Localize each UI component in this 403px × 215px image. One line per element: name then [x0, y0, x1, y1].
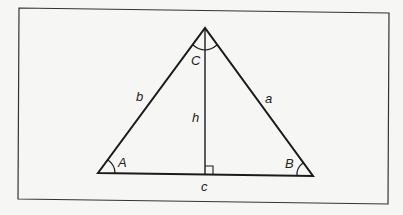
right-angle-marker [205, 166, 213, 174]
angle-arc-A [108, 160, 115, 173]
vertex-label-B: B [285, 156, 294, 171]
triangle-diagram: C A B b a c h [0, 0, 403, 215]
side-label-b: b [136, 89, 143, 104]
altitude-label-h: h [192, 110, 199, 125]
side-label-c: c [201, 179, 208, 194]
angle-arc-B [297, 163, 303, 176]
side-label-a: a [265, 91, 272, 106]
vertex-label-A: A [117, 155, 127, 170]
vertex-label-C: C [191, 53, 201, 68]
